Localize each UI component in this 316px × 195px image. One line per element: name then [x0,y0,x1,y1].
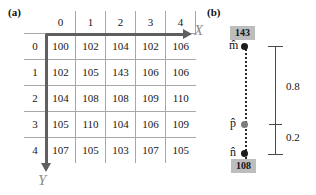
panel-b-interval-plot: (b) 143 m̂ p̂ n̂ 108 0.8 0.2 [200,0,316,195]
row-header-4: 4 [24,138,46,164]
cell-r2c3: 109 [136,86,166,112]
panel-a-label: (a) [8,6,21,18]
row-header-2: 2 [24,86,46,112]
point-marker-p-hat [241,121,248,128]
dimension-label-upper: 0.8 [286,80,300,92]
cell-r4c4: 105 [166,138,196,164]
cell-r0c3: 102 [136,34,166,60]
cell-r0c1: 102 [76,34,106,60]
cell-r4c3: 107 [136,138,166,164]
point-label-n-hat: n̂ [230,146,236,158]
table-row: 1 102 105 143 106 106 [24,60,196,86]
cell-r1c4: 106 [166,60,196,86]
table-row: 0 100 102 104 102 106 [24,34,196,60]
table-row: 2 104 108 108 109 110 [24,86,196,112]
point-label-n-hat-text: n [230,145,236,159]
cell-r2c1: 108 [76,86,106,112]
cell-r3c0: 105 [46,112,76,138]
column-header-0: 0 [46,11,76,34]
row-header-0: 0 [24,34,46,60]
cell-r2c4: 110 [166,86,196,112]
bracket-tick-bottom [268,154,283,155]
table-corner-cell [24,11,46,34]
cell-r4c1: 105 [76,138,106,164]
cell-r4c2: 103 [106,138,136,164]
row-header-1: 1 [24,60,46,86]
cell-r1c1: 105 [76,60,106,86]
panel-a-grid: (a) 0 1 2 3 4 0 100 102 104 102 106 1 10… [0,0,200,195]
column-header-1: 1 [76,11,106,34]
x-axis-line [46,33,185,36]
table-row: 3 105 110 104 106 109 [24,112,196,138]
cell-r4c0: 107 [46,138,76,164]
point-label-m-hat-text: m [229,38,238,52]
cell-r1c0: 102 [46,60,76,86]
bracket-tick-top [268,46,283,47]
point-marker-n-hat [241,150,248,157]
table-header-row: 0 1 2 3 4 [24,11,196,34]
dotted-connector-line [245,46,249,159]
cell-r3c1: 110 [76,112,106,138]
panel-b-label: (b) [207,6,220,18]
column-header-2: 2 [106,11,136,34]
cell-r3c3: 106 [136,112,166,138]
column-header-3: 3 [136,11,166,34]
cell-r0c2: 104 [106,34,136,60]
cell-r2c0: 104 [46,86,76,112]
y-axis-arrow-icon [41,163,51,172]
cell-r3c2: 104 [106,112,136,138]
row-header-3: 3 [24,112,46,138]
point-marker-m-hat [241,43,248,50]
x-axis-arrow-icon [183,29,192,39]
measurement-bracket-stem [275,46,276,154]
cell-r3c4: 109 [166,112,196,138]
cell-r2c2: 108 [106,86,136,112]
min-value-badge: 108 [231,159,256,173]
bracket-tick-middle [269,124,282,125]
point-label-p-hat: p̂ [230,117,236,129]
point-label-m-hat: m̂ [229,39,238,51]
cell-r1c3: 106 [136,60,166,86]
point-label-p-hat-text: p [230,116,236,130]
y-axis-label: Y [38,172,46,189]
cell-r1c2: 143 [106,60,136,86]
table-row: 4 107 105 103 107 105 [24,138,196,164]
y-axis-line [45,34,48,166]
dimension-label-lower: 0.2 [286,131,300,143]
cell-r0c0: 100 [46,34,76,60]
